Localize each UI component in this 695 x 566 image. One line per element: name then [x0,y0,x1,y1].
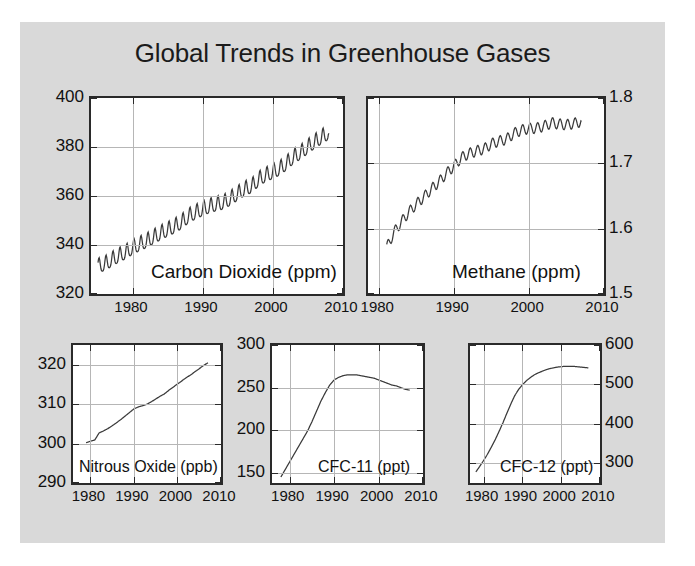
y-tick-label: 340 [56,235,84,252]
gridline-horizontal [470,384,600,385]
x-tick-label: 2000 [543,488,576,503]
axis-tick-x [134,345,135,351]
gridline-horizontal [272,430,423,431]
axis-tick-y [272,345,278,346]
gridline-horizontal [368,229,604,230]
axis-tick-y [91,196,97,197]
x-tick-label: 1990 [184,299,217,314]
panel-cfc-12: CFC-12 (ppt) 300400500600198019902000201… [468,343,658,507]
x-tick-label: 2010 [585,299,618,314]
axis-tick-x [379,288,380,294]
axis-tick-x [177,477,178,483]
axis-tick-y [215,482,221,483]
y-tick-label: 300 [38,433,66,450]
axis-tick-x [599,477,600,483]
x-tick-label: 1990 [435,299,468,314]
series-label-methane: Methane (ppm) [452,262,581,281]
axis-tick-y [91,293,97,294]
x-tick-label: 1990 [315,488,348,503]
axis-tick-y [337,147,343,148]
x-tick-label: 2010 [324,299,357,314]
axis-tick-y [594,345,600,346]
y-tick-label: 250 [237,377,265,394]
axis-tick-y [470,345,476,346]
axis-tick-y [272,388,278,389]
axis-tick-y [368,98,374,99]
axis-tick-y [594,463,600,464]
x-tick-label: 1980 [114,299,147,314]
y-tick-label: 400 [605,413,633,430]
axis-tick-y [368,163,374,164]
x-tick-label: 2000 [254,299,287,314]
axis-tick-y [598,163,604,164]
data-line [387,118,582,244]
axis-tick-x [290,477,291,483]
axis-tick-y [598,98,604,99]
y-tick-label: 200 [237,420,265,437]
gridline-horizontal [73,404,221,405]
x-tick-label: 1990 [115,488,148,503]
axis-tick-x [203,98,204,104]
axis-tick-x [561,345,562,351]
gridline-horizontal [91,245,343,246]
series-label-carbon-dioxide: Carbon Dioxide (ppm) [151,262,337,281]
panel-methane: Methane (ppm) 1.51.61.71.819801990200020… [366,96,636,324]
axis-tick-x [522,477,523,483]
axis-tick-y [91,147,97,148]
axis-tick-y [337,98,343,99]
axis-tick-y [215,404,221,405]
x-tick-label: 1980 [361,299,394,314]
axis-tick-x [484,345,485,351]
x-tick-label: 2010 [581,488,614,503]
axis-tick-y [368,293,374,294]
axis-tick-x [454,98,455,104]
gridline-horizontal [73,365,221,366]
panel-carbon-dioxide: Carbon Dioxide (ppm) 3203403603804001980… [69,96,347,324]
gridline-horizontal [272,388,423,389]
y-tick-label: 290 [38,473,66,490]
axis-tick-x [133,98,134,104]
axis-tick-x [203,288,204,294]
axis-tick-y [337,293,343,294]
axis-tick-y [215,444,221,445]
axis-tick-x [273,288,274,294]
x-tick-label: 1990 [504,488,537,503]
axis-tick-x [561,477,562,483]
axis-tick-y [594,384,600,385]
series-label-cfc-12: CFC-12 (ppt) [500,459,593,475]
axis-tick-y [91,98,97,99]
axis-tick-y [417,430,423,431]
axis-tick-x [90,345,91,351]
y-tick-label: 500 [605,374,633,391]
axis-tick-x [454,288,455,294]
axis-tick-x [379,477,380,483]
axis-tick-x [177,345,178,351]
gridline-horizontal [73,444,221,445]
axis-tick-y [73,444,79,445]
panel-nitrous-oxide: Nitrous Oxide (ppb) 29030031032019801990… [49,343,244,507]
axis-tick-x [422,477,423,483]
axis-tick-x [133,288,134,294]
axis-tick-x [334,345,335,351]
axis-tick-x [290,345,291,351]
axis-tick-x [529,288,530,294]
series-label-cfc-11: CFC-11 (ppt) [318,459,410,475]
axis-tick-y [417,473,423,474]
y-tick-label: 1.8 [609,88,633,105]
axis-tick-x [379,345,380,351]
axis-tick-y [73,404,79,405]
figure-title: Global Trends in Greenhouse Gases [20,38,665,69]
data-line [476,366,589,472]
x-tick-label: 1980 [271,488,304,503]
y-tick-label: 300 [605,453,633,470]
axis-tick-y [470,424,476,425]
gridline-horizontal [91,147,343,148]
axis-tick-y [594,424,600,425]
gridline-vertical [379,98,380,294]
axis-tick-y [598,229,604,230]
gridline-horizontal [470,424,600,425]
y-tick-label: 1.6 [609,218,633,235]
axis-tick-x [90,477,91,483]
axis-tick-x [484,477,485,483]
axis-tick-y [215,365,221,366]
